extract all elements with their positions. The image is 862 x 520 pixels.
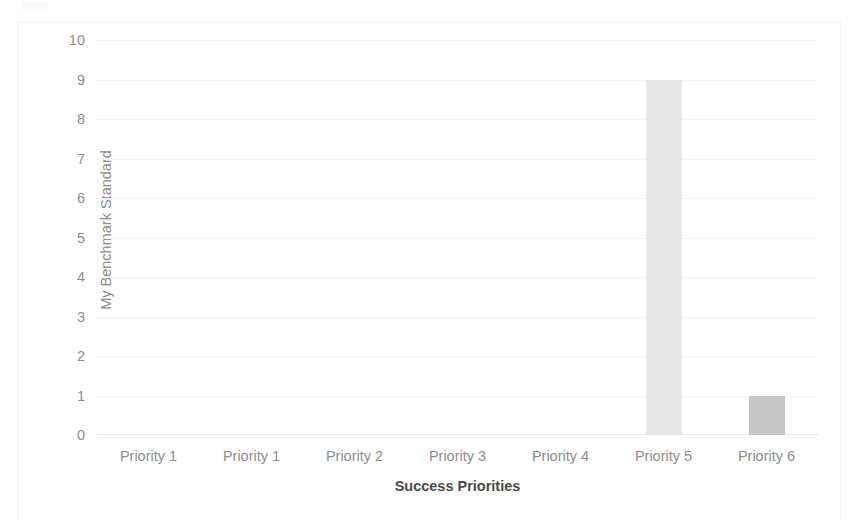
x-axis-tick-label: Priority 4 xyxy=(532,448,589,465)
gridline xyxy=(97,119,818,120)
gridline xyxy=(97,159,818,160)
gridline xyxy=(97,396,818,397)
gridline xyxy=(97,40,818,41)
x-axis-line xyxy=(97,434,818,435)
scan-artifact xyxy=(22,2,48,12)
y-axis-tick-label: 5 xyxy=(51,230,85,245)
y-axis-tick-label: 0 xyxy=(51,428,85,443)
gridline xyxy=(97,277,818,278)
y-axis-tick-label: 4 xyxy=(51,270,85,285)
y-axis-tick-label: 7 xyxy=(51,151,85,166)
plot-area xyxy=(97,40,818,435)
x-axis-tick-label: Priority 1 xyxy=(120,448,177,465)
y-axis-tick-labels: 012345678910 xyxy=(47,40,85,435)
bar[interactable] xyxy=(749,396,785,436)
x-axis-tick-labels: Priority 1Priority 1Priority 2Priority 3… xyxy=(97,448,818,470)
x-axis-tick-label: Priority 5 xyxy=(635,448,692,465)
y-axis-tick-label: 8 xyxy=(51,112,85,127)
gridline xyxy=(97,238,818,239)
gridline xyxy=(97,198,818,199)
x-axis-tick-label: Priority 1 xyxy=(223,448,280,465)
bar[interactable] xyxy=(646,80,682,436)
y-axis-tick-label: 3 xyxy=(51,309,85,324)
gridline xyxy=(97,80,818,81)
gridline xyxy=(97,356,818,357)
chart-container: My Benchmark Standard 012345678910 Prior… xyxy=(0,0,862,520)
x-axis-title: Success Priorities xyxy=(97,478,818,494)
y-axis-tick-label: 2 xyxy=(51,349,85,364)
y-axis-tick-label: 1 xyxy=(51,388,85,403)
y-axis-tick-label: 10 xyxy=(51,33,85,48)
x-axis-tick-label: Priority 3 xyxy=(429,448,486,465)
y-axis-tick-label: 6 xyxy=(51,191,85,206)
x-axis-tick-label: Priority 6 xyxy=(738,448,795,465)
x-axis-tick-label: Priority 2 xyxy=(326,448,383,465)
y-axis-tick-label: 9 xyxy=(51,72,85,87)
gridline xyxy=(97,317,818,318)
